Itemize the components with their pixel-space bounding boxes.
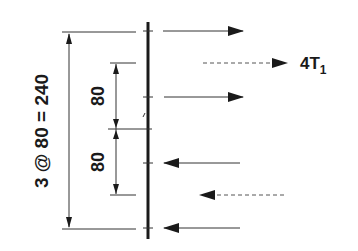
dimension-arrow-down-icon: [66, 217, 72, 228]
force-label: 4T1: [300, 54, 327, 77]
force-arrows: [163, 31, 287, 228]
dimension-arrow-down-icon: [113, 119, 119, 128]
inner-dimensions: [108, 63, 152, 195]
vertical-member: [143, 22, 153, 239]
lower-dimension-label: 80: [88, 152, 108, 172]
dimension-arrow-up-icon: [66, 33, 72, 44]
overall-dimension-label: 3 @ 80 = 240: [31, 74, 52, 188]
dimension-arrow-down-icon: [113, 184, 119, 194]
truss-load-diagram: 4T1 3 @ 80 = 240 80 80: [0, 0, 358, 251]
overall-dimension: [62, 32, 136, 229]
dimension-arrow-up-icon: [113, 130, 119, 139]
upper-dimension-label: 80: [88, 86, 108, 106]
dimension-arrow-up-icon: [113, 64, 119, 74]
small-mark: [143, 113, 145, 117]
